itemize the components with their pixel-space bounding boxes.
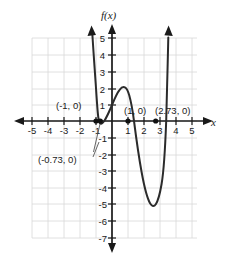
x-tick-label: 1 bbox=[125, 125, 130, 136]
curve-right-arrow bbox=[164, 26, 172, 37]
x-tick-label: -3 bbox=[60, 125, 68, 136]
x-tick-label: 2 bbox=[141, 125, 146, 136]
root-label-two-seven-three: (2.73, 0) bbox=[155, 105, 190, 116]
y-tick-label: -1 bbox=[99, 133, 107, 144]
y-tick-label: 5 bbox=[100, 33, 105, 44]
graph-figure: -5 -4 -3 -2 -1 1 2 3 4 5 5 4 3 2 1 -1 -2… bbox=[0, 0, 226, 256]
x-tick-label: -5 bbox=[28, 125, 36, 136]
x-axis bbox=[14, 117, 213, 125]
x-axis-left-arrow bbox=[14, 117, 24, 125]
root-dot-two-seven-three bbox=[153, 118, 158, 123]
root-label-neg-one: (-1, 0) bbox=[56, 100, 81, 111]
root-dot-neg-zero-seven-three bbox=[98, 118, 103, 123]
coordinate-plane: -5 -4 -3 -2 -1 1 2 3 4 5 5 4 3 2 1 -1 -2… bbox=[0, 0, 226, 256]
y-tick-label: -4 bbox=[99, 183, 107, 194]
root-dot-one bbox=[125, 118, 130, 123]
y-tick-label: -7 bbox=[99, 233, 107, 244]
root-label-neg-zero-seven-three: (-0.73, 0) bbox=[38, 154, 77, 165]
y-tick-label: 3 bbox=[100, 67, 105, 78]
y-tick-label: -5 bbox=[99, 199, 107, 210]
y-tick-label: 4 bbox=[100, 50, 105, 61]
y-tick-label: -3 bbox=[99, 166, 107, 177]
x-tick-label: 5 bbox=[189, 125, 194, 136]
y-tick-label: -6 bbox=[99, 216, 107, 227]
x-axis-label: x bbox=[210, 116, 216, 128]
y-axis-label: f(x) bbox=[101, 9, 117, 22]
curve-left-arrow bbox=[88, 26, 97, 37]
y-tick-labels: 5 4 3 2 1 -1 -2 -3 -4 -5 -6 -7 bbox=[99, 33, 107, 244]
x-tick-label: 4 bbox=[173, 125, 178, 136]
x-tick-label: -4 bbox=[44, 125, 52, 136]
y-tick-label: 1 bbox=[100, 100, 105, 111]
y-axis-bottom-arrow bbox=[108, 243, 116, 253]
x-tick-label: -2 bbox=[76, 125, 84, 136]
y-tick-label: 2 bbox=[100, 84, 105, 95]
x-tick-label: 3 bbox=[157, 125, 162, 136]
y-tick-label: -2 bbox=[99, 150, 107, 161]
root-label-one: (1, 0) bbox=[124, 105, 146, 116]
y-axis-top-arrow bbox=[108, 24, 116, 34]
